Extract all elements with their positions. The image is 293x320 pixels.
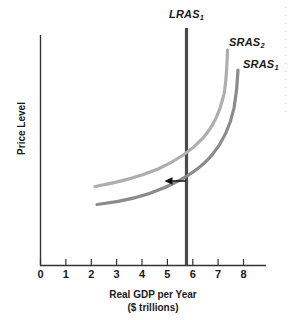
sras2-label-text: SRAS	[229, 36, 260, 48]
sras1-label-text: SRAS	[243, 58, 274, 70]
lras1-label: LRAS1	[169, 8, 204, 20]
x-axis-units: ($ trillions)	[40, 301, 266, 314]
sras1-label: SRAS1	[243, 58, 279, 70]
sras2-curve	[95, 50, 228, 187]
x-axis-title: Real GDP per Year ($ trillions)	[40, 288, 266, 314]
cropped-caption-sliver: ▪▪▪▪▪▪▪▪▪▪▪▪▪▪	[285, 4, 293, 116]
x-axis-ticks	[41, 259, 244, 265]
x-axis-title-main: Real GDP per Year	[109, 289, 196, 300]
x-tick-label-2: 2	[83, 268, 99, 280]
y-axis-title: Price Level	[16, 86, 27, 172]
x-tick-label-4: 4	[134, 268, 150, 280]
aggregate-supply-diagram: LRAS1 SRAS2 SRAS1 Price Level Real GDP p…	[0, 0, 293, 320]
x-tick-label-7: 7	[210, 268, 226, 280]
lras1-label-text: LRAS	[169, 8, 200, 20]
sras2-label-subscript: 2	[260, 41, 264, 50]
x-tick-label-5: 5	[159, 268, 175, 280]
x-tick-label-8: 8	[236, 268, 252, 280]
sras1-label-subscript: 1	[274, 63, 278, 72]
sras2-label: SRAS2	[229, 36, 265, 48]
x-tick-label-3: 3	[109, 268, 125, 280]
lras1-label-subscript: 1	[200, 13, 204, 22]
x-tick-label-6: 6	[185, 268, 201, 280]
x-tick-label-0: 0	[33, 268, 49, 280]
sras1-curve	[97, 70, 238, 205]
x-tick-label-1: 1	[58, 268, 74, 280]
